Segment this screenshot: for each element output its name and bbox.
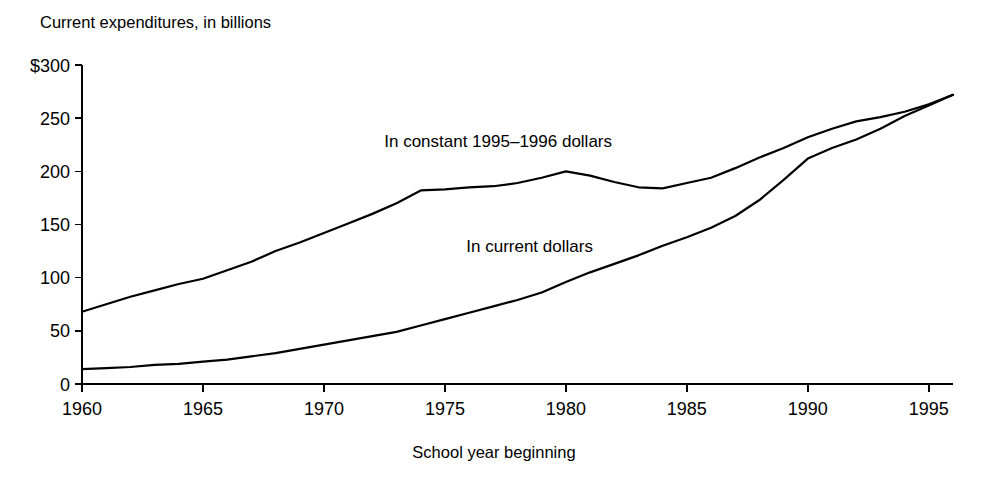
x-tick-label: 1990 (788, 399, 828, 419)
y-tick-label: $300 (30, 56, 70, 76)
x-tick-label: 1965 (183, 399, 223, 419)
y-tick-label: 50 (50, 321, 70, 341)
series-label-current-dollars: In current dollars (466, 237, 593, 256)
x-axis-tick-labels: 19601965197019751980198519901995 (62, 399, 949, 419)
chart-container: Current expenditures, in billions 050100… (0, 0, 988, 484)
x-tick-label: 1995 (909, 399, 949, 419)
y-tick-label: 200 (40, 162, 70, 182)
y-tick-label: 0 (60, 375, 70, 395)
x-tick-label: 1975 (425, 399, 465, 419)
series-label-constant-dollars: In constant 1995–1996 dollars (384, 132, 612, 151)
y-axis-tick-labels: 050100150200250$300 (30, 56, 70, 395)
x-axis-tick-marks (82, 384, 929, 392)
y-tick-label: 100 (40, 268, 70, 288)
y-axis-tick-marks (75, 65, 82, 384)
series-line-constant-dollars (82, 95, 953, 312)
y-tick-label: 250 (40, 109, 70, 129)
y-tick-label: 150 (40, 215, 70, 235)
x-axis-title: School year beginning (412, 443, 575, 461)
chart-title: Current expenditures, in billions (40, 13, 271, 31)
x-tick-label: 1970 (304, 399, 344, 419)
x-tick-label: 1985 (667, 399, 707, 419)
x-tick-label: 1980 (546, 399, 586, 419)
x-tick-label: 1960 (62, 399, 102, 419)
line-chart: Current expenditures, in billions 050100… (0, 0, 988, 484)
